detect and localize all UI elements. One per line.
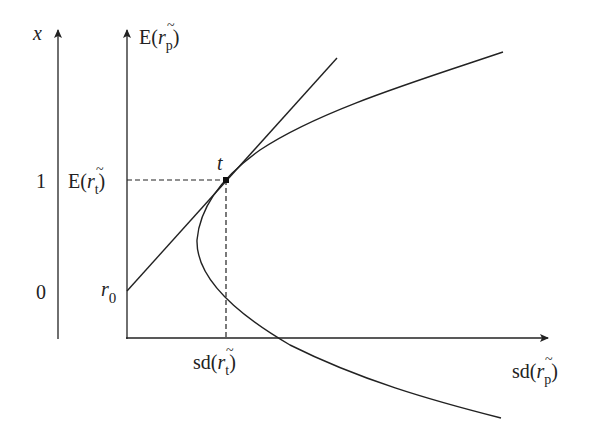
- svg-text:~: ~: [96, 162, 104, 177]
- x-axis-label: sd(rp) ~: [512, 352, 558, 387]
- y-axis-label: E(rp) ~: [139, 18, 179, 53]
- tick-label-0: 0: [36, 281, 46, 303]
- efficient-frontier-curve: [197, 52, 503, 418]
- x-weight-axis-label: x: [32, 22, 42, 44]
- svg-text:~: ~: [545, 352, 553, 367]
- tangency-point-marker: [223, 177, 229, 183]
- svg-text:~: ~: [167, 18, 175, 33]
- tick-label-1: 1: [36, 170, 46, 192]
- y-tick-label-t: E(rt) ~: [68, 162, 105, 197]
- intercept-label: r0: [101, 278, 116, 306]
- tangent-line: [127, 58, 337, 291]
- svg-text:r0: r0: [101, 278, 116, 306]
- tangent-point-label: t: [217, 152, 223, 174]
- svg-text:~: ~: [226, 343, 234, 358]
- frontier-diagram: x 1 0 E(rp) ~ sd(rp) ~ E(rt) ~ sd(rt) ~ …: [0, 0, 591, 434]
- x-tick-label-t: sd(rt) ~: [193, 343, 236, 378]
